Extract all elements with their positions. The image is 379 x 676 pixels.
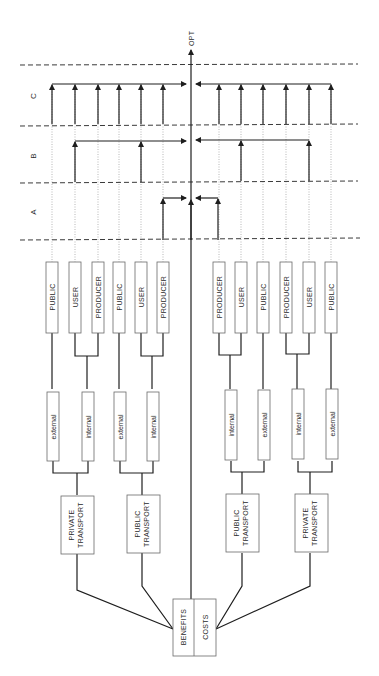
transport-label: TRANSPORT [242, 500, 249, 546]
effect-label: external [261, 412, 268, 437]
effect-label: internal [295, 412, 302, 435]
zone-b-arrows [75, 140, 309, 182]
zone-labels: C B A [29, 93, 38, 215]
actor-label: PRODUCER [160, 276, 167, 318]
opt-label: OPT [188, 30, 195, 46]
actor-label: USER [72, 287, 79, 308]
actor-label: PUBLIC [260, 283, 267, 310]
effect-label: external [50, 414, 57, 439]
transport-label: TRANSPORT [143, 501, 150, 547]
transport-label: PUBLIC [134, 510, 141, 537]
actor-label: PUBLIC [49, 283, 56, 310]
effect-label: external [117, 414, 124, 439]
zone-label-a: A [29, 209, 38, 215]
tree-connectors [52, 333, 332, 629]
decision-tree-diagram: C B A OPT [0, 0, 379, 676]
transport-label: TRANSPORT [77, 502, 84, 548]
transport-boxes [61, 494, 328, 554]
transport-label: PRIVATE [302, 507, 309, 538]
effect-label: internal [150, 415, 157, 438]
zone-label-c: C [29, 93, 38, 99]
benefits-label: BENEFITS [180, 609, 187, 646]
costs-label: COSTS [202, 614, 209, 640]
actor-label: USER [306, 287, 313, 308]
actor-label: PRODUCER [95, 276, 102, 318]
zone-a-arrows [163, 198, 218, 240]
actor-label: USER [138, 287, 145, 308]
effect-label: internal [85, 415, 92, 438]
actor-label: PRODUCER [283, 276, 290, 318]
actor-label: PRODUCER [216, 276, 223, 318]
transport-label: PRIVATE [68, 509, 75, 540]
transport-labels: PRIVATE TRANSPORT PUBLIC TRANSPORT PUBLI… [68, 500, 318, 548]
transport-label: TRANSPORT [311, 500, 318, 546]
effect-label: external [329, 411, 336, 436]
effect-label: internal [228, 413, 235, 436]
actor-label: PUBLIC [328, 283, 335, 310]
zone-label-b: B [29, 153, 38, 158]
actor-label: USER [238, 287, 245, 308]
transport-label: PUBLIC [233, 509, 240, 536]
actor-label: PUBLIC [116, 283, 123, 310]
